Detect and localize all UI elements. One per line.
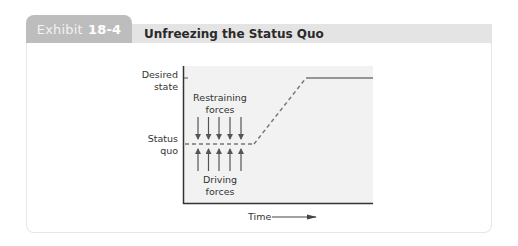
restraining-label-2: forces <box>206 104 235 115</box>
desired-label-1: Desired <box>142 69 178 80</box>
driving-label-1: Driving <box>203 174 237 185</box>
status-label-1: Status <box>148 133 178 144</box>
x-axis-label: Time <box>247 211 271 222</box>
desired-label-2: state <box>154 81 178 92</box>
status-label-2: quo <box>160 145 178 156</box>
driving-label-2: forces <box>206 186 235 197</box>
restraining-label-1: Restraining <box>193 92 247 103</box>
unfreezing-diagram: Desired state Status quo Restraining for… <box>0 0 518 246</box>
